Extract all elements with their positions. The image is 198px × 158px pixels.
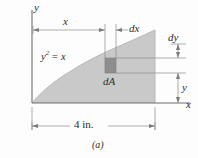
dimension-label-y: y bbox=[182, 82, 187, 93]
dim-x-arrow-right bbox=[99, 28, 105, 32]
figure-drawing bbox=[0, 0, 198, 158]
dim-width-arrow-left bbox=[32, 124, 38, 128]
dimension-label-dy: dy bbox=[168, 32, 178, 43]
dim-width-arrow-right bbox=[149, 124, 155, 128]
element-label-dA: dA bbox=[103, 76, 115, 87]
curve-equation-exponent: 2 bbox=[46, 49, 50, 57]
element-dA-rect bbox=[105, 58, 116, 73]
dim-y-arrow-top bbox=[176, 73, 180, 79]
shaded-region bbox=[32, 30, 155, 103]
dim-dy-arrow-top bbox=[176, 44, 180, 50]
curve-equation: y2= x bbox=[41, 50, 66, 62]
dim-x-arrow-left bbox=[33, 28, 39, 32]
x-axis-label: x bbox=[186, 99, 191, 110]
dim-dx-arrow-left bbox=[116, 28, 122, 32]
figure-caption: (a) bbox=[92, 140, 104, 150]
curve-equation-rest: = x bbox=[51, 51, 65, 62]
dimension-label-width: 4 in. bbox=[74, 119, 94, 130]
dimension-label-x: x bbox=[63, 16, 68, 27]
y-axis-label: y bbox=[34, 2, 39, 13]
dimension-label-dx: dx bbox=[129, 23, 139, 34]
dim-y-arrow-bottom bbox=[176, 97, 180, 103]
dim-dy-arrow-bottom bbox=[176, 52, 180, 58]
figure-container: y x x dx dy y 4 in. dA y2= x (a) bbox=[0, 0, 198, 158]
